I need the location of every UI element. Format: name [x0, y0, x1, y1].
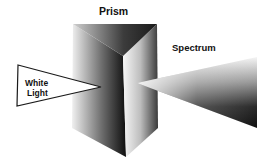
- white-light-label-line1: White: [25, 78, 48, 88]
- spectrum-label: Spectrum: [172, 42, 216, 53]
- prism-diagram: Prism Spectrum White Light: [0, 0, 269, 167]
- prism-label: Prism: [99, 5, 128, 17]
- white-light-label-line2: Light: [27, 88, 48, 98]
